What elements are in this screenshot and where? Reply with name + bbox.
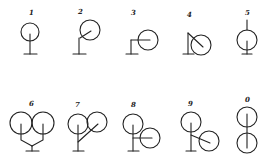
figure-label: 3 (131, 8, 136, 17)
figure-9: 9 (181, 99, 219, 151)
figure-2: 2 (73, 7, 100, 54)
figure-diagram: 1 2 3 4 5 6 (0, 0, 272, 156)
figure-label: 0 (245, 95, 250, 104)
reel-circle (80, 20, 100, 40)
reel-circle-right (87, 112, 107, 132)
figure-0: 0 (237, 95, 257, 153)
figure-label: 8 (131, 100, 136, 109)
figure-4: 4 (183, 10, 211, 55)
figure-label: 7 (75, 100, 80, 109)
figure-label: 2 (77, 7, 83, 16)
arm-left (21, 124, 32, 146)
figure-label: 6 (29, 99, 34, 108)
figure-8: 8 (123, 100, 160, 151)
reel-circle-lower (199, 131, 219, 151)
figure-label: 9 (188, 99, 193, 108)
figure-label: 4 (187, 10, 192, 19)
figure-label: 5 (245, 8, 250, 17)
figure-label: 1 (29, 8, 34, 17)
figure-1: 1 (21, 8, 39, 54)
figure-3: 3 (126, 8, 158, 54)
figure-7: 7 (68, 100, 107, 151)
figure-6: 6 (10, 99, 54, 151)
arm-right (32, 124, 43, 146)
figure-5: 5 (237, 8, 257, 54)
